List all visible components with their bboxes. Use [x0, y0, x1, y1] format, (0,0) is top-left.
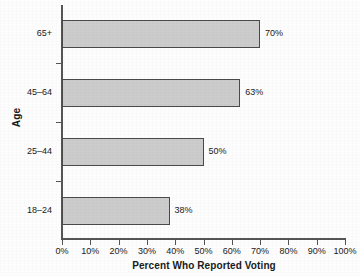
x-axis-tick [260, 240, 261, 245]
y-axis-title: Age [11, 98, 22, 138]
bar [62, 20, 260, 48]
bar-value-label: 38% [175, 205, 193, 215]
x-axis-tick [62, 240, 63, 245]
x-axis-tick [90, 240, 91, 245]
y-axis-tick [56, 181, 62, 182]
x-axis-tick [345, 240, 346, 245]
x-axis-tick [317, 240, 318, 245]
y-axis-category-label: 45–64 [0, 87, 52, 97]
x-axis-tick [147, 240, 148, 245]
bar [62, 197, 170, 225]
bar [62, 138, 204, 166]
x-axis-tick [204, 240, 205, 245]
x-axis-tick [119, 240, 120, 245]
x-axis-tick-label: 100% [325, 246, 360, 256]
y-axis-category-label: 65+ [0, 28, 52, 38]
bar-chart: Age 65+45–6425–4418–24 0%10%20%30%40%50%… [0, 0, 360, 276]
y-axis-category-label: 18–24 [0, 205, 52, 215]
y-axis-tick [56, 63, 62, 64]
x-axis-tick [232, 240, 233, 245]
x-axis-tick [175, 240, 176, 245]
x-axis-tick [288, 240, 289, 245]
bar-value-label: 70% [265, 28, 283, 38]
y-axis-category-label: 25–44 [0, 146, 52, 156]
bar-value-label: 50% [209, 146, 227, 156]
bar-value-label: 63% [245, 87, 263, 97]
y-axis-tick [56, 122, 62, 123]
x-axis-title: Percent Who Reported Voting [62, 260, 346, 271]
bar [62, 79, 240, 107]
